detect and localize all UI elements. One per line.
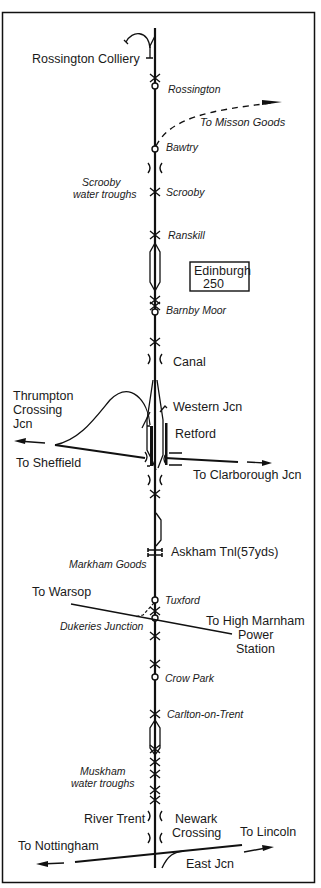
label-east-jcn: East Jcn [186,857,234,871]
label-dukeries-junction: Dukeries Junction [60,620,144,632]
station-ranskill: Ranskill [168,229,205,241]
station-bawtry: Bawtry [166,141,199,153]
label-to-misson-goods: To Misson Goods [200,116,286,128]
label-to-nottingham: To Nottingham [18,839,99,853]
clarborough-line [165,458,238,462]
distance-box-line2: 250 [203,277,224,291]
label-muskham-1: Muskham [80,765,126,777]
label-to-clarborough: To Clarborough Jcn [193,468,301,482]
label-western-jcn: Western Jcn [173,400,242,414]
distance-box-line1: Edinburgh [194,264,251,278]
label-thrumpton-2: Crossing [13,403,62,417]
label-scrooby-troughs-2: water troughs [73,188,137,200]
label-to-lincoln: To Lincoln [240,825,296,839]
station-carlton-on-trent: Carlton-on-Trent [167,708,244,720]
label-to-sheffield: To Sheffield [16,456,81,470]
label-newark-1: Newark [175,812,218,826]
label-muskham-2: water troughs [71,777,135,789]
label-to-warsop: To Warsop [32,585,91,599]
label-to-high-marnham-3: Station [236,642,275,656]
arrow-right-icon [262,100,282,105]
label-newark-2: Crossing [172,826,221,840]
station-scrooby: Scrooby [166,186,205,198]
arrow-left-icon [14,438,26,444]
station-rossington: Rossington [168,83,221,95]
label-to-high-marnham-1: To High Marnham [206,614,305,628]
railway-diagram: Rossington Colliery Rossington Bawtry Sc… [0,0,321,888]
label-thrumpton-3: Jcn [13,417,33,431]
arrow-right-icon [262,845,274,851]
station-barnby-moor: Barnby Moor [166,304,227,316]
label-askham-tunnel: Askham Tnl(57yds) [171,545,278,559]
label-canal: Canal [173,355,206,369]
label-scrooby-troughs-1: Scrooby [82,176,121,188]
label-thrumpton-1: Thrumpton [13,389,73,403]
label-rossington-colliery: Rossington Colliery [32,52,140,66]
label-retford: Retford [175,427,216,441]
station-tuxford: Tuxford [165,594,201,606]
label-markham-goods: Markham Goods [69,558,147,570]
arrow-left-icon [36,861,48,867]
bridge-icon [145,452,147,462]
label-to-high-marnham-2: Power [238,628,273,642]
arrow-right-icon [262,460,272,466]
station-crow-park: Crow Park [165,672,215,684]
label-river-trent: River Trent [84,812,146,826]
askham-loop [156,513,161,546]
